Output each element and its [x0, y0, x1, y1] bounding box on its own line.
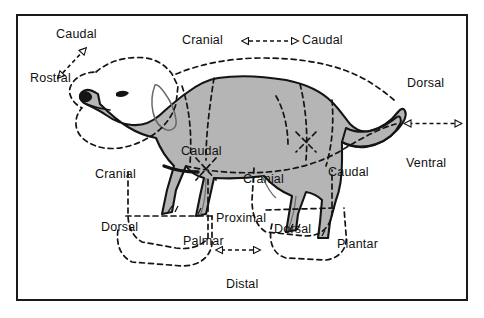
- label-forepaw-palmar: Palmar: [183, 234, 224, 248]
- label-body-dorsal: Dorsal: [407, 76, 444, 90]
- label-forepaw-dorsal: Dorsal: [101, 220, 138, 234]
- label-hindlimb-caudal: Caudal: [328, 165, 369, 179]
- label-hindpaw-plantar: Plantar: [337, 237, 378, 251]
- label-forelimb-cranial: Cranial: [95, 167, 136, 181]
- label-trunk-caudal: Caudal: [302, 33, 343, 47]
- label-limb-proximal: Proximal: [216, 211, 266, 225]
- label-head-caudal: Caudal: [56, 27, 97, 41]
- label-hindpaw-dorsal: Dorsal: [274, 222, 311, 236]
- label-body-ventral: Ventral: [406, 156, 446, 170]
- label-head-rostral: Rostral: [30, 71, 71, 85]
- figure-canvas: Caudal Rostral Cranial Caudal Dorsal Ven…: [0, 0, 484, 318]
- label-forelimb-caudal: Caudal: [181, 144, 222, 158]
- label-trunk-cranial: Cranial: [182, 33, 223, 47]
- label-hindlimb-cranial: Cranial: [243, 172, 284, 186]
- label-limb-distal: Distal: [226, 277, 258, 291]
